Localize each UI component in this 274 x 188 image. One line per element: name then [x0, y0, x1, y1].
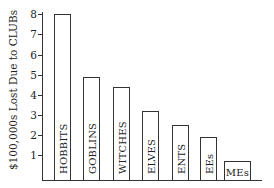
bar-label: HOBBITS [57, 123, 68, 174]
bar-elves: ELVES [142, 111, 159, 181]
y-tick [38, 135, 42, 136]
bar-label: GOBLINS [86, 123, 97, 174]
y-axis-label: $100,000s Lost Due to CLUBs [7, 0, 19, 180]
bar-label: MEs [226, 167, 249, 178]
y-tick [38, 55, 42, 56]
bar-hobbits: HOBBITS [54, 14, 71, 181]
bar-witches: WITCHES [113, 87, 130, 181]
bar-label: EEs [203, 154, 214, 174]
y-tick-label: 4 [27, 90, 37, 100]
bar-ents: ENTS [172, 125, 189, 181]
y-tick [38, 34, 42, 35]
y-tick [38, 115, 42, 116]
y-tick-label: 1 [27, 150, 37, 160]
y-tick [38, 14, 42, 15]
y-tick-label: 3 [27, 110, 37, 120]
bar-label: ENTS [175, 144, 186, 174]
y-axis [42, 12, 43, 180]
y-tick-label: 7 [27, 29, 37, 39]
bar-goblins: GOBLINS [83, 77, 100, 181]
bar-mes: MEs [224, 161, 251, 181]
y-tick-label: 5 [27, 70, 37, 80]
y-tick [38, 95, 42, 96]
bar-label: ELVES [145, 139, 156, 174]
bar-ees: EEs [200, 137, 217, 181]
y-tick [38, 155, 42, 156]
y-tick-label: 8 [27, 9, 37, 19]
y-tick [38, 75, 42, 76]
y-tick-label: 6 [27, 50, 37, 60]
bar-label: WITCHES [116, 121, 127, 174]
y-tick-label: 2 [27, 130, 37, 140]
